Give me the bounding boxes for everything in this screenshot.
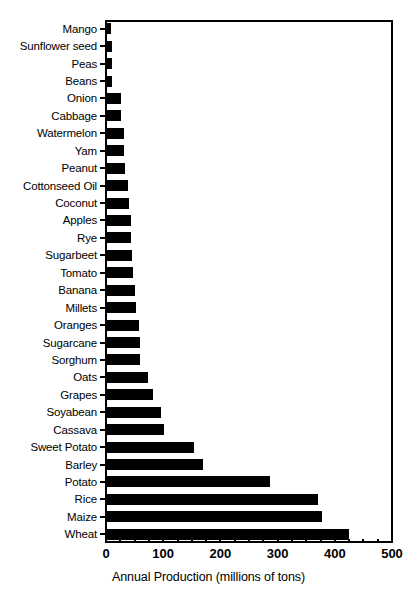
bar-row: Beans <box>0 72 417 89</box>
x-axis-tick-label: 100 <box>152 547 174 561</box>
x-axis-minor-tick <box>362 539 364 543</box>
x-axis-minor-tick <box>348 539 350 543</box>
bar-row: Maize <box>0 508 417 525</box>
bar <box>106 41 112 52</box>
bar-row: Peas <box>0 55 417 72</box>
bar <box>106 23 111 34</box>
category-label: Apples <box>0 214 97 226</box>
bar <box>106 337 140 348</box>
bar <box>106 110 121 121</box>
bar-row: Oranges <box>0 316 417 333</box>
bar-row: Watermelon <box>0 125 417 142</box>
x-axis-tick-labels: 0100200300400500 <box>0 547 417 563</box>
bar <box>106 163 125 174</box>
category-label: Mango <box>0 23 97 35</box>
bar <box>106 198 129 209</box>
x-axis-major-tick <box>105 536 107 543</box>
bar-row: Coconut <box>0 194 417 211</box>
x-axis-tick-label: 500 <box>381 547 403 561</box>
bar-row: Sugarcane <box>0 334 417 351</box>
bar <box>106 267 133 278</box>
bar <box>106 320 139 331</box>
bar-row: Sunflower seed <box>0 37 417 54</box>
category-label: Peas <box>0 58 97 70</box>
x-axis-minor-tick <box>177 539 179 543</box>
bar-row: Grapes <box>0 386 417 403</box>
bar <box>106 407 161 418</box>
x-axis-minor-tick <box>205 539 207 543</box>
category-label: Wheat <box>0 528 97 540</box>
bar-rows-container: MangoSunflower seedPeasBeansOnionCabbage… <box>0 20 417 543</box>
category-label: Maize <box>0 511 97 523</box>
x-axis-minor-tick <box>305 539 307 543</box>
x-axis-minor-tick <box>119 539 121 543</box>
bar <box>106 354 140 365</box>
category-label: Cassava <box>0 424 97 436</box>
bar <box>106 145 124 156</box>
category-label: Sweet Potato <box>0 441 97 453</box>
x-axis-minor-tick <box>234 539 236 543</box>
x-axis-minor-tick <box>291 539 293 543</box>
bar <box>106 476 270 487</box>
bar <box>106 180 128 191</box>
bar-row: Sweet Potato <box>0 438 417 455</box>
bar <box>106 302 136 313</box>
x-axis-minor-tick <box>148 539 150 543</box>
bar <box>106 424 164 435</box>
x-axis-title: Annual Production (millions of tons) <box>0 570 417 584</box>
bar-row: Barley <box>0 456 417 473</box>
bar <box>106 250 132 261</box>
bar <box>106 215 131 226</box>
category-label: Rye <box>0 232 97 244</box>
x-axis-major-tick <box>391 536 393 543</box>
category-label: Grapes <box>0 389 97 401</box>
bar <box>106 285 135 296</box>
bar <box>106 459 203 470</box>
bar-row: Tomato <box>0 264 417 281</box>
bar <box>106 442 194 453</box>
category-label: Beans <box>0 75 97 87</box>
category-label: Potato <box>0 476 97 488</box>
x-axis-tick-label: 300 <box>267 547 289 561</box>
category-label: Sunflower seed <box>0 40 97 52</box>
bar <box>106 232 131 243</box>
category-label: Sorghum <box>0 354 97 366</box>
bar-row: Oats <box>0 369 417 386</box>
bar-row: Cassava <box>0 421 417 438</box>
bar <box>106 93 121 104</box>
bar-row: Cabbage <box>0 107 417 124</box>
category-label: Onion <box>0 92 97 104</box>
bar-row: Banana <box>0 282 417 299</box>
bar-row: Peanut <box>0 159 417 176</box>
x-axis-minor-tick <box>191 539 193 543</box>
bar-row: Rye <box>0 229 417 246</box>
x-axis-minor-tick <box>134 539 136 543</box>
bar <box>106 372 148 383</box>
category-label: Yam <box>0 145 97 157</box>
category-label: Oats <box>0 371 97 383</box>
category-label: Banana <box>0 284 97 296</box>
bar <box>106 494 318 505</box>
bar-row: Yam <box>0 142 417 159</box>
category-label: Soyabean <box>0 406 97 418</box>
bar-row: Wheat <box>0 526 417 543</box>
x-axis-tick-label: 400 <box>324 547 346 561</box>
bar-row: Rice <box>0 491 417 508</box>
bar-chart: MangoSunflower seedPeasBeansOnionCabbage… <box>0 0 417 601</box>
category-label: Watermelon <box>0 127 97 139</box>
x-axis-tick-label: 200 <box>210 547 232 561</box>
x-axis-major-tick <box>162 536 164 543</box>
bar <box>106 76 112 87</box>
x-axis-minor-tick <box>262 539 264 543</box>
category-label: Peanut <box>0 162 97 174</box>
bar-row: Onion <box>0 90 417 107</box>
bar-row: Potato <box>0 473 417 490</box>
category-label: Cabbage <box>0 110 97 122</box>
bar <box>106 58 112 69</box>
bar-row: Millets <box>0 299 417 316</box>
category-label: Sugarcane <box>0 337 97 349</box>
category-label: Cottonseed Oil <box>0 180 97 192</box>
category-label: Sugarbeet <box>0 249 97 261</box>
x-axis-tick-label: 0 <box>102 547 109 561</box>
bar <box>106 389 153 400</box>
